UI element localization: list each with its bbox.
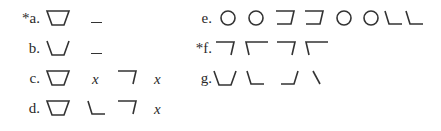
circle-icon: [220, 10, 236, 26]
trapezoid-inverted-icon: [46, 10, 70, 26]
hook-right-down-icon: [118, 70, 138, 86]
trapezoid-inverted-icon: [46, 70, 70, 86]
bracket-right-open-icon: [305, 10, 325, 26]
item-label: e.: [172, 10, 212, 26]
item-label: g.: [172, 70, 212, 86]
corner-bottom-left-icon: [246, 70, 266, 86]
corner-bottom-left-icon: [384, 10, 404, 26]
hook-left-down-icon: [305, 41, 329, 57]
corner-bottom-left-icon: [87, 100, 107, 116]
circle-icon: [248, 10, 264, 26]
hook-left-down-icon: [245, 41, 269, 57]
hook-right-down-icon: [277, 41, 297, 57]
item-label: b.: [0, 40, 40, 56]
corner-bottom-left-icon: [405, 10, 425, 26]
backslash-stroke-icon: [312, 70, 322, 86]
item-label: c.: [0, 70, 40, 86]
bracket-right-open-icon: [276, 10, 296, 26]
corner-bottom-right-slant-icon: [280, 70, 300, 86]
variable-x: x: [154, 71, 161, 87]
hook-right-down-icon: [118, 100, 138, 116]
blank-line: [91, 22, 102, 23]
variable-x: x: [92, 71, 99, 87]
hook-right-down-icon: [216, 41, 236, 57]
trapezoid-inverted-icon: [46, 100, 70, 116]
variable-x: x: [154, 101, 161, 117]
cup-open-icon: [213, 70, 237, 86]
item-label: d.: [0, 100, 40, 116]
item-label: *f.: [172, 40, 212, 56]
cup-open-icon: [46, 40, 70, 56]
circle-icon: [363, 10, 379, 26]
item-label: *a.: [0, 10, 40, 26]
circle-icon: [336, 10, 352, 26]
blank-line: [91, 53, 102, 54]
